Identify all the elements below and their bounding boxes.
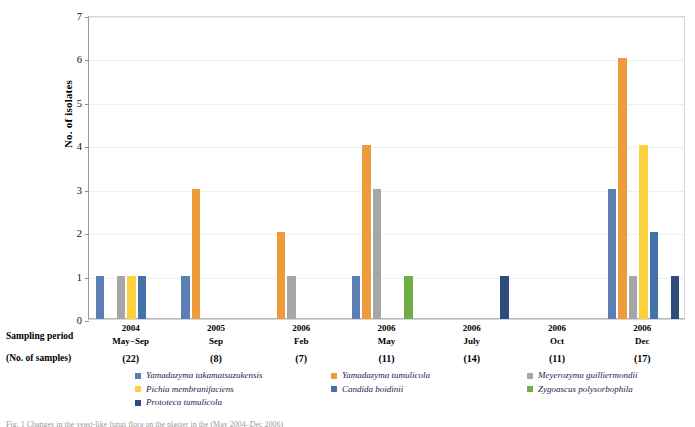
- legend-swatch: [331, 373, 337, 379]
- legend-swatch: [527, 386, 533, 392]
- group-month: May−Sep: [88, 335, 173, 348]
- figure-chart-isolates: No. of isolates 01234567 Sampling period…: [0, 0, 695, 427]
- group-year: 2006: [259, 322, 344, 335]
- no-of-samples-label: (No. of samples): [6, 353, 71, 363]
- bar: [650, 232, 659, 319]
- bar: [352, 276, 361, 319]
- x-axis-group-label: 2004May−Sep(22): [88, 322, 173, 366]
- bar: [277, 232, 286, 319]
- y-tick-label: 2: [77, 229, 82, 240]
- legend-label: Prototeca tumulicola: [146, 398, 222, 407]
- x-axis-group-labels: 2004May−Sep(22)2005Sep(8)2006Feb(7)2006M…: [88, 322, 685, 370]
- legend-label: Meyerozyma guilliermondii: [538, 371, 637, 380]
- bar: [639, 145, 648, 319]
- x-axis-group-label: 2006July(14): [429, 322, 514, 366]
- bar: [629, 276, 638, 319]
- legend-item: Zygoascus polysorbophila: [527, 385, 633, 394]
- bar: [138, 276, 147, 319]
- group-month: July: [429, 335, 514, 348]
- legend-swatch: [331, 386, 337, 392]
- group-year: 2006: [600, 322, 685, 335]
- group-month: May: [344, 335, 429, 348]
- legend-swatch: [135, 400, 141, 406]
- legend-item: Yamadazyma tumulicola: [331, 371, 430, 380]
- bar: [618, 58, 627, 319]
- x-axis-group-label: 2006Dec(17): [600, 322, 685, 366]
- x-axis-group-label: 2005Sep(8): [173, 322, 258, 366]
- bars-layer: [89, 17, 684, 319]
- y-tick-label: 7: [77, 12, 82, 23]
- legend-item: Yamadazyma takamatsuzukensis: [135, 371, 262, 380]
- y-tick-label: 3: [77, 185, 82, 196]
- legend-item: Prototeca tumulicola: [135, 398, 222, 407]
- group-month: Feb: [259, 335, 344, 348]
- x-axis-group-label: 2006Oct(11): [514, 322, 599, 366]
- group-sample-count: (11): [514, 353, 599, 366]
- bar: [362, 145, 371, 319]
- group-year: 2005: [173, 322, 258, 335]
- bar: [671, 276, 680, 319]
- group-year: 2006: [344, 322, 429, 335]
- bar: [608, 189, 617, 319]
- y-tick-label: 0: [77, 316, 82, 327]
- legend-swatch: [135, 386, 141, 392]
- y-tick-label: 1: [77, 272, 82, 283]
- plot-area: 01234567: [88, 16, 685, 320]
- group-sample-count: (17): [600, 353, 685, 366]
- bar: [181, 276, 190, 319]
- sampling-period-label: Sampling period: [6, 331, 73, 341]
- legend-label: Candida boidinii: [342, 385, 403, 394]
- y-tick-label: 4: [77, 142, 82, 153]
- group-sample-count: (22): [88, 353, 173, 366]
- legend-label: Pichia membranifaciens: [146, 385, 234, 394]
- figure-caption: Fig. 1 Changes in the yeast-like fungi f…: [6, 420, 686, 427]
- bar: [96, 276, 105, 319]
- legend-item: Meyerozyma guilliermondii: [527, 371, 637, 380]
- group-month: Sep: [173, 335, 258, 348]
- bar: [127, 276, 136, 319]
- legend-swatch: [135, 373, 141, 379]
- x-axis-group-label: 2006Feb(7): [259, 322, 344, 366]
- legend-label: Zygoascus polysorbophila: [538, 385, 633, 394]
- group-year: 2006: [514, 322, 599, 335]
- group-month: Oct: [514, 335, 599, 348]
- group-year: 2006: [429, 322, 514, 335]
- group-sample-count: (14): [429, 353, 514, 366]
- y-axis-title: No. of isolates: [62, 54, 74, 174]
- group-month: Dec: [600, 335, 685, 348]
- bar: [192, 189, 201, 319]
- legend-item: Candida boidinii: [331, 385, 403, 394]
- x-axis-group-label: 2006May(11): [344, 322, 429, 366]
- bar: [117, 276, 126, 319]
- legend-label: Yamadazyma takamatsuzukensis: [146, 371, 262, 380]
- legend-label: Yamadazyma tumulicola: [342, 371, 430, 380]
- legend-item: Pichia membranifaciens: [135, 385, 234, 394]
- bar: [373, 189, 382, 319]
- bar: [404, 276, 413, 319]
- y-tick-label: 6: [77, 55, 82, 66]
- legend-swatch: [527, 373, 533, 379]
- y-tick-label: 5: [77, 99, 82, 110]
- group-sample-count: (7): [259, 353, 344, 366]
- group-sample-count: (11): [344, 353, 429, 366]
- legend: Yamadazyma takamatsuzukensisYamadazyma t…: [135, 371, 695, 413]
- bar: [500, 276, 509, 319]
- group-sample-count: (8): [173, 353, 258, 366]
- group-year: 2004: [88, 322, 173, 335]
- bar: [287, 276, 296, 319]
